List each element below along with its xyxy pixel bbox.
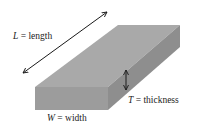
thickness-label: T = thickness	[128, 95, 179, 105]
length-label: L = length	[12, 31, 52, 41]
slab-front-face	[35, 87, 108, 110]
width-label: W = width	[47, 113, 87, 123]
slab-diagram: L = length T = thickness W = width	[0, 0, 206, 131]
